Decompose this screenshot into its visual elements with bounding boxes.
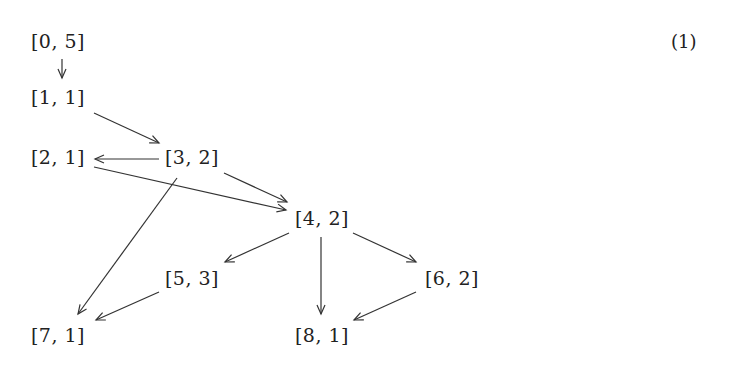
edge-arrow — [354, 292, 416, 320]
node-1-1: [1, 1] — [31, 86, 85, 108]
equation-number: (1) — [671, 31, 697, 52]
edge-arrow — [94, 113, 159, 143]
node-6-2: [6, 2] — [425, 267, 479, 289]
node-4-2: [4, 2] — [295, 207, 349, 229]
node-8-1: [8, 1] — [295, 324, 349, 346]
edge-arrow — [96, 292, 159, 320]
node-2-1: [2, 1] — [31, 146, 85, 168]
edge-arrow — [353, 233, 416, 262]
node-3-2: [3, 2] — [165, 146, 219, 168]
edges-layer — [0, 0, 753, 369]
edge-arrow — [225, 233, 289, 262]
edge-arrow — [78, 178, 177, 314]
node-0-5: [0, 5] — [31, 30, 85, 52]
node-7-1: [7, 1] — [31, 324, 85, 346]
node-5-3: [5, 3] — [165, 267, 219, 289]
